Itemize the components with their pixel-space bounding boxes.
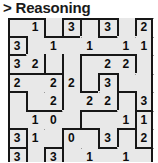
clue-value: 3: [14, 40, 21, 52]
loop-segment: [44, 18, 46, 36]
clue-value: 3: [14, 58, 21, 70]
clue-cell[interactable]: 1: [26, 111, 44, 130]
clue-cell[interactable]: 0: [44, 111, 62, 130]
loop-segment: [80, 18, 82, 36]
clue-cell[interactable]: [81, 55, 99, 74]
loop-segment: [151, 128, 153, 147]
clue-cell[interactable]: 1: [26, 18, 44, 37]
loop-segment: [26, 91, 28, 110]
clue-cell[interactable]: [81, 18, 99, 37]
clue-cell[interactable]: 2: [99, 55, 117, 74]
clue-cell[interactable]: 2: [26, 55, 44, 74]
lattice-dot: [153, 37, 154, 38]
clue-cell[interactable]: [44, 55, 62, 74]
clue-cell[interactable]: [26, 148, 44, 163]
loop-segment: [8, 128, 26, 130]
clue-value: 1: [32, 21, 39, 33]
loop-segment: [8, 54, 26, 56]
clue-cell[interactable]: 3: [8, 148, 26, 163]
slitherlink-board[interactable]: 1332311113222222322231011310323311: [8, 18, 153, 162]
clue-cell[interactable]: 3: [99, 129, 117, 148]
loop-segment: [62, 91, 64, 110]
loop-segment: [62, 54, 64, 73]
loop-segment: [135, 91, 137, 110]
clue-cell[interactable]: 2: [44, 74, 62, 93]
clue-cell[interactable]: [62, 92, 80, 111]
clue-cell[interactable]: 1: [117, 111, 135, 130]
clue-cell[interactable]: 3: [8, 129, 26, 148]
loop-segment: [26, 110, 62, 112]
loop-segment: [135, 18, 137, 36]
lattice-dot: [153, 129, 154, 130]
loop-segment: [117, 73, 119, 91]
clue-cell[interactable]: [81, 74, 99, 93]
clue-value: 3: [141, 95, 148, 107]
clue-cell[interactable]: [8, 18, 26, 37]
clue-cell[interactable]: 1: [26, 129, 44, 148]
clue-cell[interactable]: 2: [8, 74, 26, 93]
loop-segment: [151, 91, 153, 110]
clue-cell[interactable]: [8, 92, 26, 111]
clue-cell[interactable]: 2: [99, 92, 117, 111]
clue-cell[interactable]: 1: [44, 37, 62, 56]
clue-cell[interactable]: [99, 37, 117, 56]
clue-cell[interactable]: 1: [81, 148, 99, 163]
clue-cell[interactable]: 2: [62, 74, 80, 93]
clue-cell[interactable]: 2: [81, 92, 99, 111]
clue-cell[interactable]: [26, 37, 44, 56]
clue-cell[interactable]: [44, 18, 62, 37]
loop-segment: [80, 110, 82, 128]
clue-cell[interactable]: 2: [44, 92, 62, 111]
clue-cell[interactable]: 3: [99, 74, 117, 93]
clue-cell[interactable]: [44, 129, 62, 148]
clue-value: 3: [68, 21, 75, 33]
clue-value: 1: [86, 40, 93, 52]
clue-cell[interactable]: [99, 148, 117, 163]
clue-cell[interactable]: [62, 37, 80, 56]
clue-cell[interactable]: [8, 111, 26, 130]
loop-segment: [8, 73, 10, 91]
clue-cell[interactable]: 3: [8, 55, 26, 74]
clue-cell[interactable]: 0: [62, 129, 80, 148]
clue-cell[interactable]: 3: [99, 18, 117, 37]
clue-cell[interactable]: 1: [117, 148, 135, 163]
loop-segment: [98, 18, 117, 20]
lattice-dot: [153, 92, 154, 93]
loop-segment: [151, 18, 153, 36]
clue-cell[interactable]: [81, 129, 99, 148]
clue-cell[interactable]: 3: [62, 18, 80, 37]
clue-cell[interactable]: [26, 74, 44, 93]
clue-cell[interactable]: [117, 129, 135, 148]
clue-value: 1: [122, 40, 129, 52]
clue-cell[interactable]: 1: [117, 37, 135, 56]
clue-cell[interactable]: [117, 74, 135, 93]
loop-segment: [80, 54, 135, 56]
clue-cell[interactable]: [117, 92, 135, 111]
loop-segment: [80, 110, 117, 112]
clue-cell[interactable]: [62, 111, 80, 130]
loop-segment: [151, 147, 153, 162]
loop-segment: [26, 128, 28, 147]
clue-cell[interactable]: [117, 18, 135, 37]
loop-segment: [44, 147, 62, 149]
clue-cell[interactable]: 1: [81, 37, 99, 56]
loop-segment: [117, 91, 119, 110]
clue-cell[interactable]: 3: [8, 37, 26, 56]
clue-cell[interactable]: [62, 55, 80, 74]
clue-cell[interactable]: 3: [44, 148, 62, 163]
loop-segment: [8, 110, 10, 128]
clue-value: 0: [68, 132, 75, 144]
clue-cell[interactable]: [81, 111, 99, 130]
clue-value: 1: [86, 151, 93, 162]
clue-cell[interactable]: 2: [117, 55, 135, 74]
clue-cell[interactable]: [62, 148, 80, 163]
loop-segment: [80, 18, 98, 20]
clue-cell[interactable]: [26, 92, 44, 111]
loop-segment: [8, 147, 26, 149]
clue-cell[interactable]: [99, 111, 117, 130]
page-title: > Reasoning: [3, 0, 90, 16]
loop-segment: [8, 91, 27, 93]
loop-segment: [151, 36, 153, 54]
lattice-dot: [153, 111, 154, 112]
clue-value: 2: [122, 58, 129, 70]
